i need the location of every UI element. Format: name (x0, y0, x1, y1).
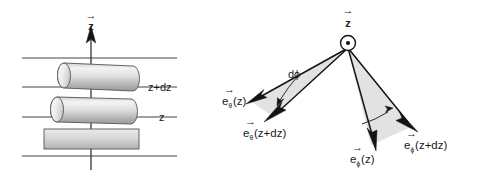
cylinder-middle-cap (51, 97, 64, 122)
label-e-phi-z-subscript: ϕ (356, 160, 360, 168)
label-e-phi-z-plus-dz-argument: (z+dz) (415, 139, 447, 151)
label-e-phi-z-text: eϕ(z) (350, 153, 375, 168)
label-e-phi-z-plus-dz-text: eϕ(z+dz) (404, 139, 447, 154)
label-e-theta-z-plus-dz: → eθ(z+dz) (243, 115, 286, 141)
label-e-phi-z-plus-dz-vector-marker: → (406, 127, 417, 139)
label-e-theta-z-plus-dz-text: eθ(z+dz) (243, 127, 286, 141)
vector-e-theta-z-shaft (258, 48, 348, 98)
label-e-phi-z-argument: (z) (361, 153, 375, 165)
label-z: z (159, 111, 165, 123)
z-axis-label: z (88, 20, 94, 32)
label-e-phi-z-plus-dz-subscript: ϕ (410, 146, 414, 154)
cylinder-bottom-body (44, 129, 139, 149)
label-e-theta-z-plus-dz-argument: (z+dz) (254, 127, 286, 139)
left-panel-group: → z z+dz z (22, 9, 177, 170)
label-e-theta-z-plus-dz-subscript: θ (249, 134, 253, 141)
cylinder-top (58, 63, 140, 91)
cylinder-bottom (44, 129, 139, 149)
physics-figure: → z z+dz z (0, 0, 479, 173)
label-e-phi-z: → eϕ(z) (350, 141, 375, 168)
label-e-theta-z-plus-dz-vector-marker: → (245, 115, 256, 127)
right-panel-group: → z dϕ → eθ(z) → eθ(z+dz) → (222, 4, 447, 168)
right-z-vector-marker: → (343, 4, 354, 16)
label-e-theta-z: → eθ(z) (222, 83, 247, 109)
label-e-theta-z-vector-marker: → (224, 83, 235, 95)
cylinder-middle (51, 97, 138, 124)
left-angle-wedge (252, 48, 348, 116)
origin-center-dot-icon (346, 41, 350, 45)
d-phi-angle-label: dϕ (288, 68, 300, 80)
label-e-phi-z-plus-dz: → eϕ(z+dz) (404, 127, 447, 154)
right-z-axis-label: z (345, 17, 351, 29)
cylinder-top-cap (58, 63, 71, 88)
label-z-plus-dz: z+dz (148, 81, 172, 93)
vector-e-theta-z-plus-dz-shaft (278, 48, 348, 112)
label-e-theta-z-argument: (z) (233, 95, 247, 107)
right-angle-wedge (348, 48, 411, 145)
label-e-phi-z-vector-marker: → (352, 141, 363, 153)
label-e-theta-z-subscript: θ (228, 102, 232, 109)
label-e-theta-z-text: eθ(z) (222, 95, 247, 109)
